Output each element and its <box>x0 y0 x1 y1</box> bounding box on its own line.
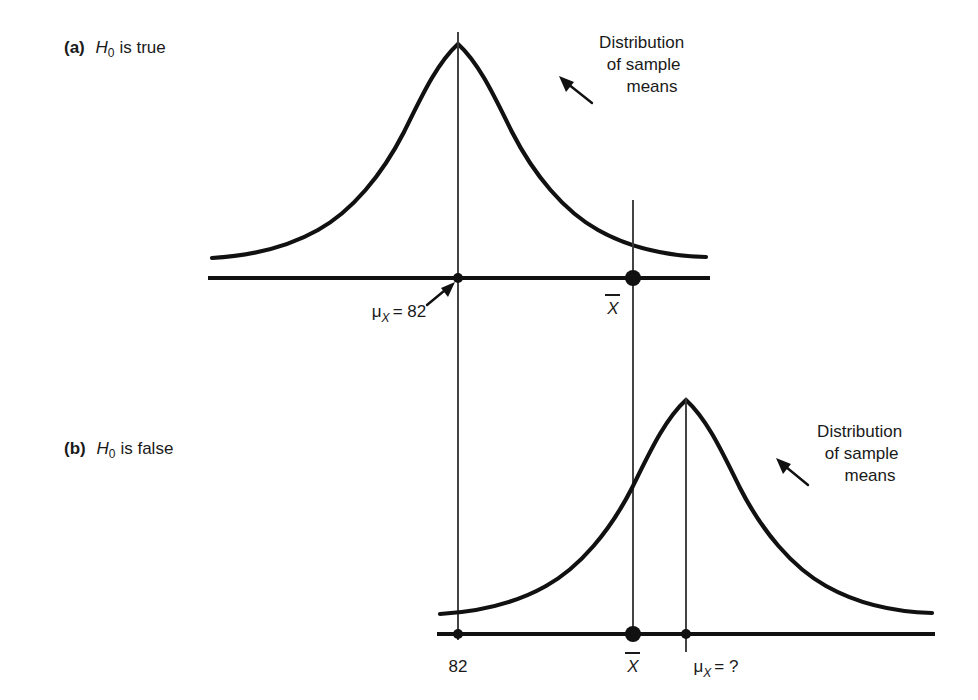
annotation-arrow-a <box>559 76 592 103</box>
panel-b-h-subscript: 0 <box>109 447 116 461</box>
panel-a-h-symbol: H <box>96 38 109 57</box>
mu-unknown-label-b: μX= ? <box>694 657 739 680</box>
panel-a-statement: is true <box>119 38 165 57</box>
annotation-text-b: Distribution of sample means <box>817 422 907 485</box>
panel-a-h-subscript: 0 <box>108 46 115 60</box>
mu-value-a: = 82 <box>393 302 427 321</box>
xbar-glyph-b: X <box>626 657 639 676</box>
panel-a: (a) H0is true Distribution of sa <box>64 32 710 640</box>
mu-value-b: = ? <box>714 657 738 676</box>
panel-a-tag: (a) <box>64 38 85 57</box>
annotation-arrow-b <box>776 458 808 485</box>
annotation-b-line1: Distribution <box>817 422 902 441</box>
annotation-b-line2: of sample <box>825 444 899 463</box>
annotation-a-line3: means <box>626 77 677 96</box>
panel-b-caption: (b) H0is false <box>64 439 173 461</box>
marker-dot-xbar-a <box>625 270 641 286</box>
marker-dot-xbar-b <box>625 626 641 642</box>
statistics-figure: (a) H0is true Distribution of sa <box>0 0 978 700</box>
mu-pointer-arrow-a <box>427 282 455 305</box>
xbar-label-a: X <box>605 295 620 318</box>
value-82-label-b: 82 <box>449 657 468 676</box>
mu-subscript-a: X <box>381 311 391 325</box>
mu-label-a: μX= 82 <box>372 302 426 325</box>
mu-glyph-a: μ <box>372 302 382 321</box>
panel-b-statement: is false <box>120 439 173 458</box>
panel-a-caption: (a) H0is true <box>64 38 166 60</box>
mu-glyph-b: μ <box>694 657 704 676</box>
marker-dot-82-b <box>453 629 463 639</box>
panel-b: (b) H0is false Distribution of sample <box>64 398 935 680</box>
xbar-glyph-a: X <box>606 299 619 318</box>
xbar-label-b: X <box>625 653 640 676</box>
annotation-text-a: Distribution of sample means <box>599 33 689 96</box>
marker-dot-mu-a <box>453 273 463 283</box>
annotation-a-line1: Distribution <box>599 33 684 52</box>
annotation-a-line2: of sample <box>607 55 681 74</box>
panel-b-h-symbol: H <box>96 439 109 458</box>
panel-b-tag: (b) <box>64 439 86 458</box>
annotation-b-line3: means <box>844 466 895 485</box>
mu-subscript-b: X <box>702 666 712 680</box>
marker-dot-mu-unknown-b <box>681 629 691 639</box>
